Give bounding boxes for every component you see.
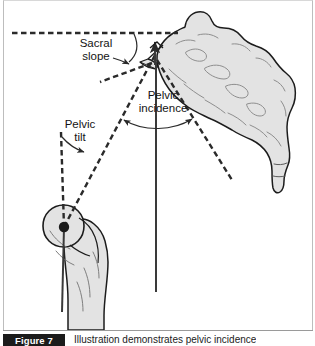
sacral-slope-line2: slope [82, 50, 110, 62]
figure-number-badge: Figure 7 [3, 334, 65, 346]
sacral-slope-leader [113, 58, 129, 64]
label-pelvic-tilt: Pelvic tilt [65, 118, 96, 143]
hip-center-dot [59, 222, 69, 232]
pelvic-incidence-illustration: Sacral slope Pelvic incidence Pelvic til… [0, 0, 315, 330]
figure-caption: Figure 7 Illustration demonstrates pelvi… [3, 334, 313, 346]
pelvic-tilt-line2: tilt [74, 131, 86, 143]
figure-caption-text: Illustration demonstrates pelvic inciden… [74, 334, 256, 346]
label-sacral-slope: Sacral slope [80, 37, 113, 62]
sacral-slope-line1: Sacral [80, 37, 113, 49]
figure-container: Sacral slope Pelvic incidence Pelvic til… [0, 0, 315, 346]
sacral-slope-arc [129, 34, 137, 62]
pelvic-incidence-line2: incidence [139, 102, 188, 114]
pelvic-incidence-arc [124, 119, 192, 129]
pelvic-incidence-line1: Pelvic [148, 89, 179, 101]
pelvic-tilt-line1: Pelvic [65, 118, 96, 130]
femur-bone [43, 205, 108, 330]
